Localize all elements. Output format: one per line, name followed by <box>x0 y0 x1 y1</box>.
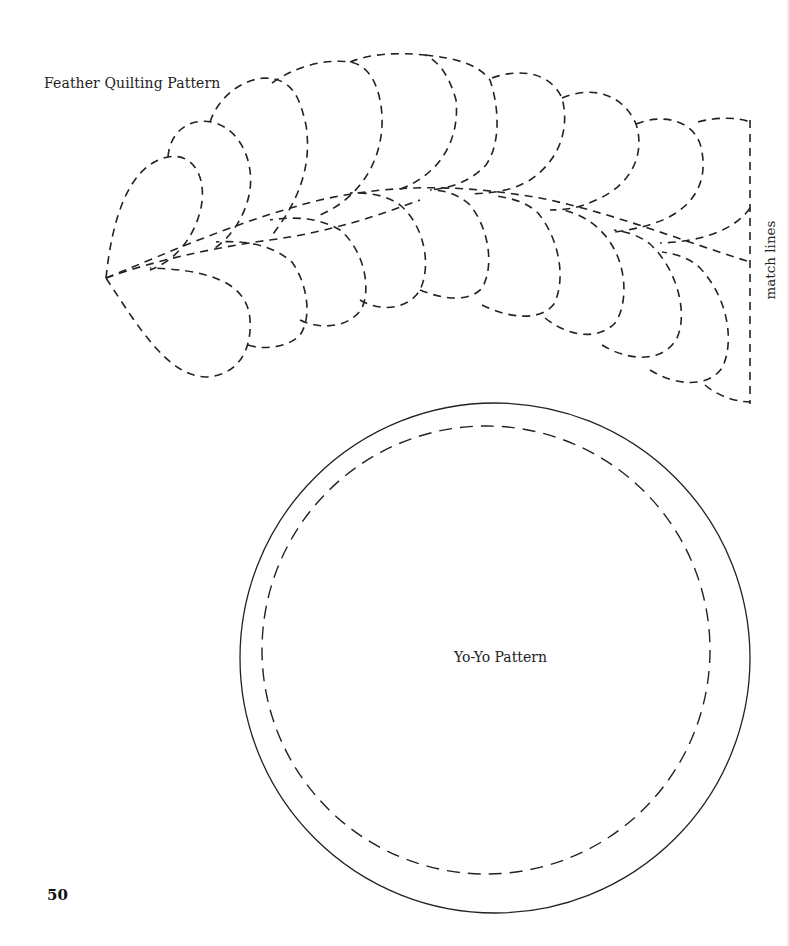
pattern-artwork <box>0 0 789 946</box>
feather-plume-upper-6 <box>425 55 497 190</box>
feather-plume-upper-2 <box>168 121 251 248</box>
feather-plume-upper-10 <box>660 118 750 243</box>
feather-plume-upper-7 <box>470 73 565 194</box>
feather-plume-lower-3 <box>270 218 366 326</box>
match-lines-label-container: match lines <box>760 205 780 315</box>
feather-plume-lower-9 <box>650 252 728 383</box>
feather-plume-lower-7 <box>545 210 624 334</box>
feather-plume-upper-3 <box>210 78 308 238</box>
feather-plume-lower-4 <box>350 193 426 308</box>
feather-plume-lower-5 <box>420 190 489 298</box>
feather-plume-upper-8 <box>550 92 639 210</box>
feather-plume-lower-1 <box>106 268 250 377</box>
feather-plume-lower-6 <box>482 196 560 316</box>
feather-plume-upper-1 <box>106 156 202 278</box>
feather-pattern-title: Feather Quilting Pattern <box>44 75 220 91</box>
feather-plume-lower-10 <box>705 385 750 402</box>
feather-quilting-pattern <box>106 54 750 404</box>
feather-plume-upper-4 <box>272 61 382 215</box>
feather-plume-upper-5 <box>350 54 457 190</box>
book-page: Feather Quilting Pattern match lines Yo-… <box>0 0 789 946</box>
yoyo-pattern-title: Yo-Yo Pattern <box>454 649 547 665</box>
feather-plume-lower-2 <box>216 242 307 348</box>
match-lines-label: match lines <box>762 220 778 299</box>
feather-spine-lower <box>106 200 420 278</box>
page-number: 50 <box>47 886 68 904</box>
